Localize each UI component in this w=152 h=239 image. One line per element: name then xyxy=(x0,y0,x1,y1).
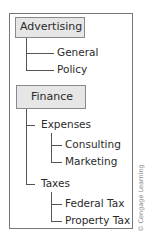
connector-taxes xyxy=(26,184,35,185)
node-federal-tax: Federal Tax xyxy=(65,197,124,210)
connector-policy xyxy=(26,70,54,71)
connector-general xyxy=(26,53,54,54)
node-taxes: Taxes xyxy=(41,177,70,190)
connector-marketing xyxy=(51,162,62,163)
copyright-credit: © Cengage Learning xyxy=(137,164,145,232)
connector-expenses xyxy=(26,125,35,126)
connector-federal-tax xyxy=(51,204,62,205)
connector-property-tax xyxy=(51,221,62,222)
connector-advertising xyxy=(26,38,27,70)
node-advertising: Advertising xyxy=(15,17,85,38)
node-consulting: Consulting xyxy=(65,138,121,151)
node-property-tax: Property Tax xyxy=(65,214,130,227)
node-marketing: Marketing xyxy=(65,155,117,168)
node-general: General xyxy=(57,46,98,59)
connector-finance xyxy=(26,109,27,184)
node-policy: Policy xyxy=(57,63,87,76)
connector-expenses-children xyxy=(51,133,52,162)
node-expenses: Expenses xyxy=(41,118,91,131)
connector-consulting xyxy=(51,145,62,146)
node-finance-label: Finance xyxy=(31,90,73,103)
node-finance: Finance xyxy=(16,85,86,109)
node-advertising-label: Advertising xyxy=(20,20,82,33)
connector-taxes-children xyxy=(51,192,52,222)
